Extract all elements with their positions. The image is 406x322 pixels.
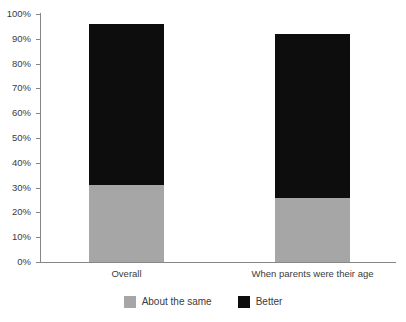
legend-swatch-icon bbox=[238, 296, 250, 308]
bar-segment-about-the-same bbox=[275, 198, 350, 262]
bar-segment-better bbox=[89, 24, 164, 185]
legend-label: About the same bbox=[142, 295, 212, 308]
y-axis-tick-mark bbox=[36, 88, 40, 89]
y-axis-tick-label: 70% bbox=[12, 81, 31, 94]
y-axis-tick-mark bbox=[36, 163, 40, 164]
y-axis-tick-mark bbox=[36, 138, 40, 139]
y-axis-tick-mark bbox=[36, 237, 40, 238]
y-axis-tick-label: 40% bbox=[12, 156, 31, 169]
stacked-bar-chart: 100%90%80%70%60%50%40%30%20%10%0% Overal… bbox=[0, 0, 406, 322]
legend-item[interactable]: About the same bbox=[124, 295, 212, 308]
chart-legend: About the sameBetter bbox=[0, 295, 406, 308]
y-axis-tick-mark bbox=[36, 262, 40, 263]
legend-item[interactable]: Better bbox=[238, 295, 283, 308]
y-axis-tick-label: 20% bbox=[12, 205, 31, 218]
y-axis-tick-mark bbox=[36, 14, 40, 15]
y-axis-tick-label: 30% bbox=[12, 181, 31, 194]
y-axis-tick-label: 60% bbox=[12, 106, 31, 119]
y-axis-tick-mark bbox=[36, 188, 40, 189]
y-axis-tick-label: 90% bbox=[12, 32, 31, 45]
y-axis-tick-mark bbox=[36, 39, 40, 40]
x-axis-category-label: Overall bbox=[37, 267, 217, 280]
bar-segment-better bbox=[275, 34, 350, 198]
y-axis-tick-mark bbox=[36, 212, 40, 213]
bar-segment-about-the-same bbox=[89, 185, 164, 262]
y-axis-tick-label: 80% bbox=[12, 57, 31, 70]
bar-column bbox=[89, 24, 164, 262]
y-axis-tick-label: 50% bbox=[12, 131, 31, 144]
plot-area bbox=[41, 14, 396, 262]
y-axis-tick-mark bbox=[36, 64, 40, 65]
y-axis-tick-mark bbox=[36, 113, 40, 114]
bar-column bbox=[275, 34, 350, 262]
y-axis-tick-label: 100% bbox=[7, 7, 31, 20]
legend-swatch-icon bbox=[124, 296, 136, 308]
x-axis-category-label: When parents were their age bbox=[223, 267, 403, 280]
y-axis-tick-label: 10% bbox=[12, 230, 31, 243]
x-axis-line bbox=[40, 262, 396, 263]
legend-label: Better bbox=[256, 295, 283, 308]
y-axis-tick-label: 0% bbox=[17, 255, 31, 268]
